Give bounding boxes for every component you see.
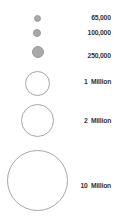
circle-100000 [33,29,41,37]
label-1-million: 1 Million [84,78,111,86]
label-250000: 250,000 [88,52,111,60]
circle-2-million [21,104,54,137]
label-10-million: 10 Million [80,182,111,190]
circle-65000 [34,15,41,22]
label-2-million: 2 Million [84,117,111,125]
label-100000: 100,000 [88,29,111,37]
circle-250000 [32,46,44,58]
label-65000: 65,000 [91,14,111,22]
proportional-circle-legend: 65,000 100,000 250,000 1 Million 2 Milli… [0,0,118,223]
circle-1-million [25,71,50,96]
circle-10-million [7,150,68,211]
